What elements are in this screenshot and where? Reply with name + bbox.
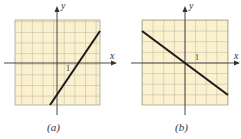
graph-b (131, 6, 240, 115)
x-axis-label-a: x (110, 50, 114, 61)
tick-label-a: 1 (66, 64, 70, 73)
x-axis-label-b: x (234, 50, 238, 61)
tick-label-b: 1 (195, 53, 199, 62)
caption-b: (b) (175, 121, 188, 133)
caption-a: (a) (47, 121, 60, 133)
graphs-figure (0, 0, 241, 139)
y-axis-label-b: y (189, 0, 193, 11)
y-arrow-icon (183, 6, 188, 12)
graph-a (4, 6, 117, 115)
x-arrow-icon (111, 61, 117, 66)
x-arrow-icon (234, 61, 240, 66)
y-arrow-icon (55, 6, 60, 12)
y-axis-label-a: y (61, 0, 65, 11)
